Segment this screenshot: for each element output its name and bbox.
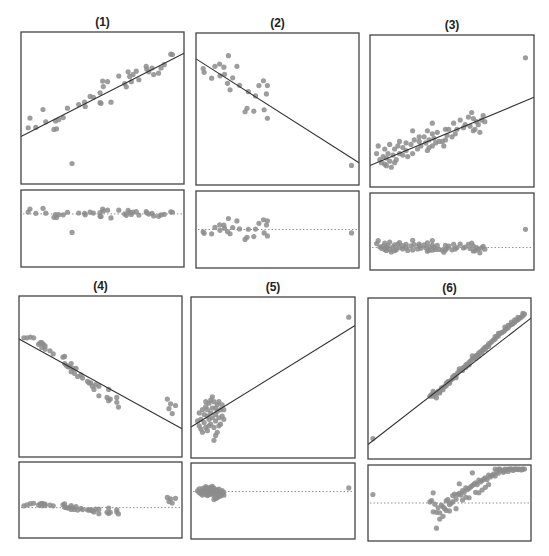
residual-point [473, 490, 478, 495]
residual-point [253, 227, 258, 232]
data-point [408, 142, 413, 147]
residual-point [230, 225, 235, 230]
residual-point [116, 208, 121, 213]
data-point [221, 65, 226, 70]
residual-point [397, 245, 402, 250]
residual-point [382, 241, 387, 246]
data-point [376, 143, 381, 148]
data-point [108, 100, 113, 105]
residual-point [244, 235, 249, 240]
regression-line [19, 339, 182, 429]
residual-point [441, 250, 446, 255]
regression-line [191, 325, 355, 427]
data-point [256, 83, 261, 88]
data-point [410, 128, 415, 133]
data-point [385, 151, 390, 156]
data-point [346, 315, 351, 320]
data-point [469, 110, 474, 115]
residual-point [520, 466, 525, 471]
plot-frame [196, 33, 359, 185]
residual-point [434, 526, 439, 531]
plot-frame [21, 190, 184, 267]
data-point [200, 430, 205, 435]
data-point [251, 109, 256, 114]
scatter-plot [368, 298, 531, 459]
data-point [435, 130, 440, 135]
residual-point [450, 499, 455, 504]
data-point [170, 411, 175, 416]
data-point [221, 417, 226, 422]
plot-frame [370, 193, 534, 270]
data-point [173, 403, 178, 408]
residual-point [221, 490, 226, 495]
data-point [502, 324, 507, 329]
data-point [422, 134, 427, 139]
data-point [466, 114, 471, 119]
data-point [40, 107, 45, 112]
data-point [27, 115, 32, 120]
residual-plot [196, 191, 359, 268]
residual-point [453, 506, 458, 511]
data-point [116, 404, 121, 409]
residual-point [65, 210, 70, 215]
data-point [410, 151, 415, 156]
residual-point [376, 238, 381, 243]
data-point [244, 106, 249, 111]
panel-title: (4) [71, 279, 131, 293]
data-point [443, 127, 448, 132]
residual-point [129, 212, 134, 217]
residual-point [370, 492, 375, 497]
data-point [403, 140, 408, 145]
data-point [443, 137, 448, 142]
data-point [69, 361, 74, 366]
data-point [523, 55, 528, 60]
residual-point [430, 238, 435, 243]
residual-point [426, 248, 431, 253]
data-point [477, 130, 482, 135]
data-point [482, 119, 487, 124]
residual-point [460, 497, 465, 502]
residual-point [410, 247, 415, 252]
residual-point [444, 508, 449, 513]
data-point [395, 143, 400, 148]
data-point [205, 428, 210, 433]
panel-title: (2) [248, 16, 308, 30]
residual-point [170, 500, 175, 505]
residual-point [469, 240, 474, 245]
data-point [211, 425, 216, 430]
data-point [264, 91, 269, 96]
data-point [417, 134, 422, 139]
residual-point [96, 507, 101, 512]
residual-point [42, 503, 47, 508]
residual-point [96, 511, 101, 516]
data-point [51, 351, 56, 356]
data-point [392, 160, 397, 165]
data-point [265, 83, 270, 88]
residual-point [209, 231, 214, 236]
residual-point [346, 485, 351, 490]
residual-point [387, 239, 392, 244]
data-point [80, 376, 85, 381]
data-point [65, 106, 70, 111]
residual-point [51, 503, 56, 508]
data-point [425, 128, 430, 133]
data-point [96, 393, 101, 398]
data-point [382, 146, 387, 151]
residual-point [213, 488, 218, 493]
data-point [165, 396, 170, 401]
residual-point [451, 242, 456, 247]
scatter-plot [191, 297, 355, 458]
panel-title: (3) [422, 18, 482, 32]
data-point [400, 145, 405, 150]
residual-point [216, 494, 221, 499]
data-point [151, 72, 156, 77]
residual-point [82, 211, 87, 216]
residual-point [108, 510, 113, 515]
residual-point [493, 466, 498, 471]
plot-frame [19, 296, 182, 457]
data-point [168, 401, 173, 406]
data-point [441, 143, 446, 148]
data-point [430, 121, 435, 126]
regression-line [21, 53, 184, 136]
residual-point [208, 485, 213, 490]
